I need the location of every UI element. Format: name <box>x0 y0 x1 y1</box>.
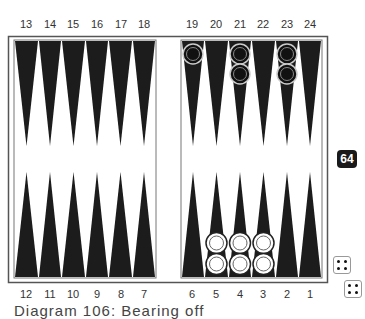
black-checker-point-19 <box>183 44 203 64</box>
point-label-3: 3 <box>251 288 275 300</box>
black-checker-point-23 <box>277 44 297 64</box>
point-label-11: 11 <box>38 288 62 300</box>
point-label-9: 9 <box>85 288 109 300</box>
doubling-cube: 64 <box>337 150 357 168</box>
diagram-caption: Diagram 106: Bearing off <box>14 302 205 319</box>
black-checker-point-21 <box>230 64 250 84</box>
white-checker-point-3 <box>253 233 274 254</box>
point-label-10: 10 <box>61 288 85 300</box>
black-checker-point-21 <box>230 44 250 64</box>
white-checker-point-3 <box>253 254 274 275</box>
point-label-5: 5 <box>204 288 228 300</box>
black-checker-point-23 <box>277 64 297 84</box>
white-checkers <box>206 233 274 275</box>
point-label-12: 12 <box>14 288 38 300</box>
die-2 <box>344 280 362 298</box>
die-1 <box>333 256 351 274</box>
point-label-8: 8 <box>109 288 133 300</box>
point-label-4: 4 <box>228 288 252 300</box>
white-checker-point-5 <box>206 254 227 275</box>
point-label-2: 2 <box>275 288 299 300</box>
point-label-7: 7 <box>132 288 156 300</box>
white-checker-point-4 <box>230 233 251 254</box>
point-label-6: 6 <box>180 288 204 300</box>
white-checker-point-4 <box>230 254 251 275</box>
white-checker-point-5 <box>206 233 227 254</box>
point-label-1: 1 <box>298 288 322 300</box>
